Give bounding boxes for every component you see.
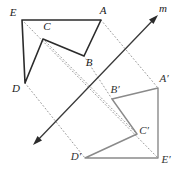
connector-D-to-D-prime — [25, 83, 85, 158]
mirror-line-label: m — [159, 2, 167, 14]
vertex-label-B-prime: B′ — [110, 83, 120, 95]
preimage-polygon — [22, 20, 101, 83]
vertex-label-E: E — [9, 6, 17, 18]
vertex-label-A: A — [99, 4, 107, 16]
vertex-label-D-prime: D′ — [70, 150, 82, 162]
mirror-line-segment — [36, 18, 155, 142]
vertex-label-A-prime: A′ — [158, 72, 169, 84]
vertex-label-D: D — [11, 82, 20, 94]
vertex-label-E-prime: E′ — [160, 153, 171, 165]
vertex-label-C: C — [43, 20, 51, 32]
vertex-label-B: B — [86, 56, 93, 68]
diagram-canvas: A B C D E A′ B′ C′ D′ E′ m — [0, 0, 176, 175]
connector-A-to-A-prime — [101, 20, 158, 88]
reflection-diagram: A B C D E A′ B′ C′ D′ E′ m — [0, 0, 176, 175]
vertex-label-C-prime: C′ — [139, 124, 149, 136]
